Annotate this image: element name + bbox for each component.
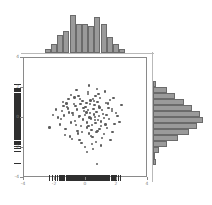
scatter-point <box>97 119 99 121</box>
scatter-point <box>48 126 50 128</box>
scatter-point <box>111 110 113 112</box>
y-axis-tick <box>20 57 23 58</box>
scatter-point <box>101 109 103 111</box>
scatter-point <box>78 115 80 117</box>
scatter-point <box>120 104 122 106</box>
scatter-point <box>113 123 115 125</box>
scatter-point <box>88 116 90 118</box>
scatter-point <box>75 124 77 126</box>
right-histogram-bar <box>153 99 184 105</box>
joint-scatter-histogram-figure: -4-2024 -4-2024 <box>0 0 212 205</box>
right-histogram-bar <box>153 105 192 111</box>
right-histogram-bar <box>153 147 159 153</box>
scatter-point <box>82 118 84 120</box>
right-marginal-histogram <box>153 57 203 177</box>
scatter-point <box>103 133 105 135</box>
scatter-point <box>97 93 99 95</box>
right-histogram-bar <box>153 129 189 135</box>
scatter-point <box>89 99 91 101</box>
x-axis: -4-2024 <box>23 177 147 191</box>
scatter-point <box>109 99 111 101</box>
scatter-point <box>89 112 91 114</box>
scatter-point <box>71 138 73 140</box>
scatter-point <box>84 114 86 116</box>
right-histogram-bar <box>153 111 200 117</box>
scatter-point <box>91 143 93 145</box>
scatter-point <box>86 121 88 123</box>
scatter-point <box>85 102 87 104</box>
scatter-point <box>60 118 62 120</box>
scatter-point <box>75 89 77 91</box>
y-axis-tick-label: -2 <box>15 144 19 150</box>
y-axis-tick-label: 4 <box>16 54 19 60</box>
right-histogram-bar <box>153 117 203 123</box>
scatter-point <box>93 100 95 102</box>
scatter-point <box>67 98 69 100</box>
x-axis-tick-label: 2 <box>115 181 118 187</box>
scatter-point <box>73 96 75 98</box>
right-histogram-bar <box>153 81 156 87</box>
right-histogram-bar <box>153 159 156 165</box>
x-axis-tick <box>147 177 148 180</box>
scatter-point <box>61 110 63 112</box>
scatter-point <box>70 94 72 96</box>
scatter-point <box>92 108 94 110</box>
scatter-point <box>95 141 97 143</box>
top-marginal-histogram <box>23 15 147 53</box>
right-histogram-bar <box>153 87 167 93</box>
scatter-points-layer <box>24 58 146 176</box>
right-histogram-bar <box>153 153 155 159</box>
scatter-point <box>99 97 101 99</box>
scatter-point <box>62 101 64 103</box>
scatter-point <box>70 121 72 123</box>
scatter-point <box>89 103 91 105</box>
scatter-point <box>77 95 79 97</box>
right-histogram-baseline <box>152 52 153 182</box>
scatter-point <box>112 97 114 99</box>
scatter-point <box>93 104 95 106</box>
scatter-point <box>98 128 100 130</box>
scatter-point <box>52 114 54 116</box>
x-axis-tick <box>85 177 86 180</box>
scatter-point <box>98 105 100 107</box>
scatter-point <box>63 114 65 116</box>
x-axis-tick-label: 4 <box>146 181 149 187</box>
top-histogram-baseline <box>21 53 154 54</box>
scatter-point <box>74 105 76 107</box>
scatter-point <box>59 123 61 125</box>
scatter-point <box>68 111 70 113</box>
scatter-point <box>96 163 98 165</box>
scatter-point <box>107 107 109 109</box>
scatter-point <box>115 112 117 114</box>
scatter-point <box>77 132 79 134</box>
scatter-point <box>107 102 109 104</box>
scatter-point <box>116 115 118 117</box>
scatter-point <box>106 127 108 129</box>
scatter-point <box>88 132 90 134</box>
x-axis-tick <box>116 177 117 180</box>
x-axis-tick <box>54 177 55 180</box>
y-axis: -4-2024 <box>8 57 23 177</box>
scatter-point <box>81 131 83 133</box>
scatter-point <box>109 139 111 141</box>
scatter-point <box>78 139 80 141</box>
right-histogram-bar <box>153 123 197 129</box>
scatter-point <box>100 125 102 127</box>
scatter-point <box>87 125 89 127</box>
scatter-point <box>100 144 102 146</box>
scatter-point <box>104 90 106 92</box>
right-histogram-bar <box>153 93 175 99</box>
scatter-point <box>94 122 96 124</box>
scatter-point <box>72 114 74 116</box>
scatter-point <box>96 101 98 103</box>
scatter-point <box>92 148 94 150</box>
scatter-point <box>84 146 86 148</box>
scatter-point <box>104 123 106 125</box>
scatter-point <box>96 88 98 90</box>
scatter-point <box>91 136 93 138</box>
scatter-point <box>81 100 83 102</box>
scatter-point <box>74 120 76 122</box>
scatter-point <box>57 116 59 118</box>
y-axis-tick <box>20 117 23 118</box>
scatter-point <box>94 95 96 97</box>
